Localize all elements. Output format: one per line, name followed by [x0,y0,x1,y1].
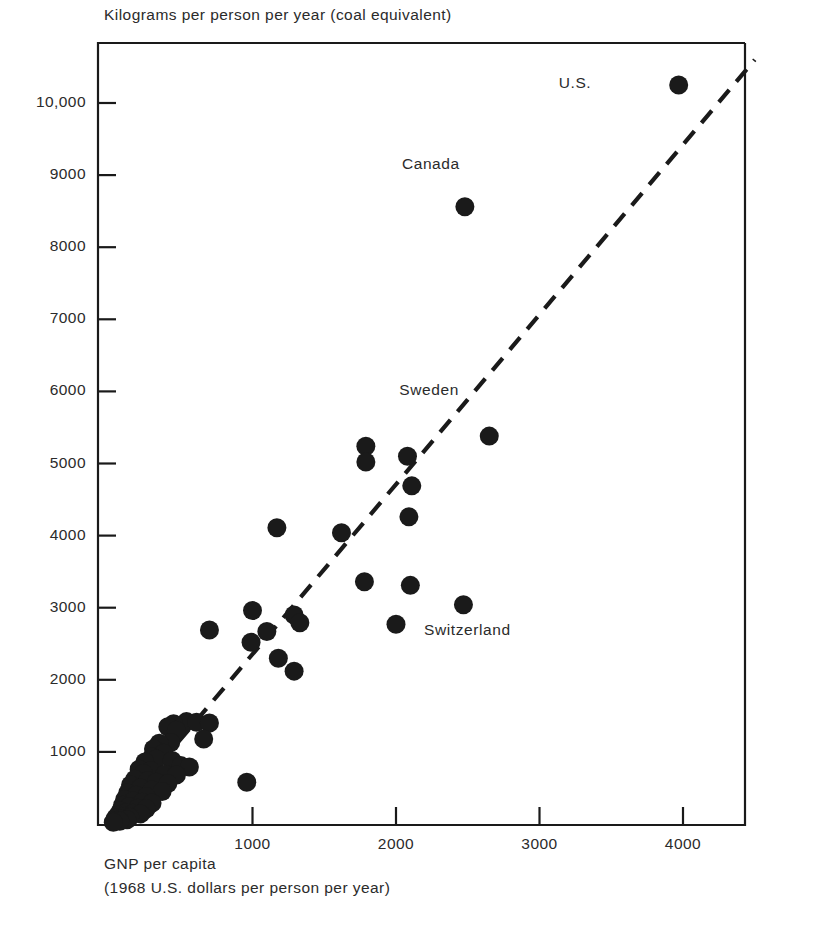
trend-line [109,60,755,824]
data-point [355,572,374,591]
data-point [285,662,304,681]
x-tick-label: 4000 [643,835,723,853]
data-point [669,75,688,94]
x-tick-label: 3000 [500,835,580,853]
data-point [290,613,309,632]
x-tick-label: 2000 [356,835,436,853]
y-tick-label: 5000 [6,454,86,472]
data-point [257,622,276,641]
y-tick-label: 4000 [6,526,86,544]
y-tick-label: 6000 [6,381,86,399]
y-axis-title: Kilograms per person per year (coal equi… [104,6,452,24]
y-tick-label: 3000 [6,598,86,616]
y-tick-label: 7000 [6,309,86,327]
x-axis-title-line2: (1968 U.S. dollars per person per year) [104,879,390,897]
y-tick-label: 10,000 [6,93,86,111]
data-point [356,453,375,472]
data-point [332,523,351,542]
scatter-chart-figure: Kilograms per person per year (coal equi… [0,0,827,938]
data-point [194,729,213,748]
data-point [267,518,286,537]
data-point [242,633,261,652]
data-point [237,773,256,792]
data-point [455,197,474,216]
plot-area [0,0,827,938]
y-tick-label: 9000 [6,165,86,183]
x-axis-title-line1: GNP per capita [104,855,216,873]
point-label-canada: Canada [402,155,460,173]
data-points [104,75,688,831]
data-point [387,615,406,634]
x-tick-label: 1000 [213,835,293,853]
data-point [401,576,420,595]
y-tick-label: 8000 [6,237,86,255]
y-tick-label: 1000 [6,742,86,760]
data-point [399,507,418,526]
data-point [480,427,499,446]
data-point [200,621,219,640]
data-point [454,595,473,614]
point-label-u-s: U.S. [559,74,592,92]
data-point [398,447,417,466]
data-point [243,601,262,620]
point-label-sweden: Sweden [399,381,459,399]
data-point [269,649,288,668]
data-point [402,476,421,495]
y-tick-label: 2000 [6,670,86,688]
data-point [104,813,123,832]
point-label-switzerland: Switzerland [424,621,511,639]
